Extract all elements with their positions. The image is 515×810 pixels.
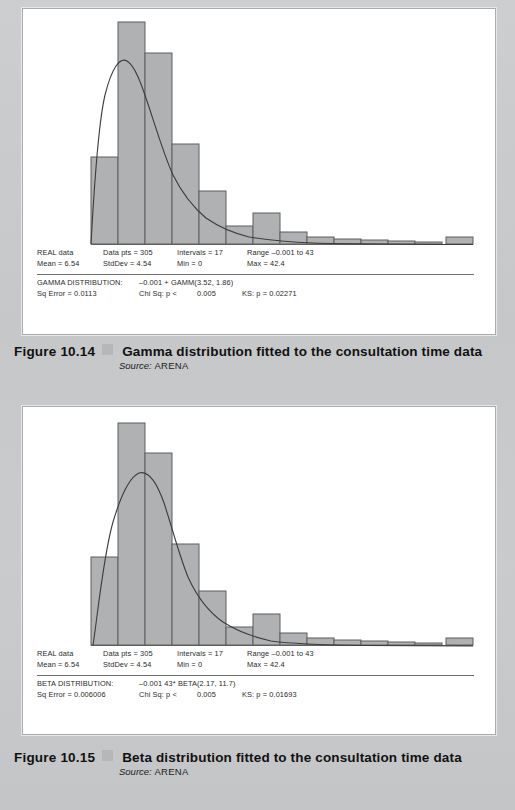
stat-mean: Mean = 6.54 (37, 259, 79, 268)
bar (361, 641, 388, 645)
stat-chi-sq: Chi Sq: p < (139, 289, 177, 298)
caption-source: Source: ARENA (119, 360, 505, 371)
bar (334, 640, 361, 645)
stat-intervals: Intervals = 17 (177, 649, 223, 658)
stat-data-pts: Data pts = 305 (103, 248, 153, 257)
caption-10-14: Figure 10.14 Gamma distribution fitted t… (14, 344, 505, 371)
bar (199, 191, 226, 244)
distribution-label: GAMMA DISTRIBUTION: (37, 278, 123, 287)
distribution-row-errors: Sq Error = 0.0113 Chi Sq: p < 0.005 KS: … (37, 289, 477, 300)
stats-row-real-data: REAL data Data pts = 305 Intervals = 17 … (37, 248, 477, 259)
bar (172, 544, 199, 645)
stat-ks: KS: p = 0.01693 (242, 690, 297, 699)
caption-title: Gamma distribution fitted to the consult… (122, 344, 482, 359)
bar (226, 226, 253, 244)
stat-chi-sq: Chi Sq: p < (139, 690, 177, 699)
bar (172, 144, 199, 244)
stat-real-data: REAL data (37, 649, 73, 658)
chart-panel-beta: REAL data Data pts = 305 Intervals = 17 … (22, 406, 496, 735)
stat-sq-error: Sq Error = 0.0113 (37, 289, 97, 298)
stat-real-data: REAL data (37, 248, 73, 257)
bar (446, 237, 473, 244)
stat-min: Min = 0 (177, 660, 202, 669)
caption-title: Beta distribution fitted to the consulta… (122, 750, 462, 765)
stats-divider-beta (37, 675, 474, 676)
bar (118, 423, 145, 645)
stat-max: Max = 42.4 (247, 660, 285, 669)
bar (388, 642, 415, 645)
stat-stddev: StdDev = 4.54 (103, 660, 151, 669)
distribution-row-errors: Sq Error = 0.006006 Chi Sq: p < 0.005 KS… (37, 690, 477, 701)
stats-block-gamma: REAL data Data pts = 305 Intervals = 17 … (37, 248, 477, 270)
caption-marker-icon (102, 344, 113, 355)
histogram-bars-gamma (91, 22, 473, 244)
chart-panel-gamma: REAL data Data pts = 305 Intervals = 17 … (22, 8, 496, 335)
caption-source-value: ARENA (154, 766, 188, 777)
bar (118, 22, 145, 244)
distribution-expression: –0.001 + GAMM(3.52, 1.86) (139, 278, 233, 287)
bar (91, 157, 118, 244)
stat-chi-sq-value: 0.005 (197, 289, 216, 298)
bar (446, 638, 473, 645)
caption-source-value: ARENA (154, 360, 188, 371)
caption-source: Source: ARENA (119, 766, 505, 777)
distribution-block-beta: BETA DISTRIBUTION: –0.001 43* BETA(2.17,… (37, 679, 477, 701)
distribution-block-gamma: GAMMA DISTRIBUTION: –0.001 + GAMM(3.52, … (37, 278, 477, 300)
stat-mean: Mean = 6.54 (37, 660, 79, 669)
stat-ks: KS: p = 0.02271 (242, 289, 297, 298)
caption-10-15: Figure 10.15 Beta distribution fitted to… (14, 750, 505, 777)
bar (145, 453, 172, 645)
bar (145, 53, 172, 244)
stat-range: Range –0.001 to 43 (247, 248, 314, 257)
bar (415, 643, 442, 645)
bar (415, 242, 442, 244)
histogram-bars-beta (91, 423, 473, 645)
stat-max: Max = 42.4 (247, 259, 285, 268)
caption-source-label: Source: (119, 360, 152, 371)
stats-divider-gamma (37, 274, 474, 275)
stats-row-summary: Mean = 6.54 StdDev = 4.54 Min = 0 Max = … (37, 660, 477, 671)
caption-figure-number: Figure 10.15 (14, 750, 95, 765)
stat-chi-sq-value: 0.005 (197, 690, 216, 699)
stat-range: Range –0.001 to 43 (247, 649, 314, 658)
caption-source-label: Source: (119, 766, 152, 777)
stat-min: Min = 0 (177, 259, 202, 268)
caption-figure-number: Figure 10.14 (14, 344, 95, 359)
caption-marker-icon (102, 750, 113, 761)
bar (226, 627, 253, 645)
stat-intervals: Intervals = 17 (177, 248, 223, 257)
distribution-expression: –0.001 43* BETA(2.17, 11.7) (139, 679, 236, 688)
stats-block-beta: REAL data Data pts = 305 Intervals = 17 … (37, 649, 477, 671)
bar (199, 591, 226, 645)
stats-row-summary: Mean = 6.54 StdDev = 4.54 Min = 0 Max = … (37, 259, 477, 270)
stat-data-pts: Data pts = 305 (103, 649, 153, 658)
distribution-label: BETA DISTRIBUTION: (37, 679, 113, 688)
stat-sq-error: Sq Error = 0.006006 (37, 690, 106, 699)
stat-stddev: StdDev = 4.54 (103, 259, 151, 268)
distribution-row-expression: GAMMA DISTRIBUTION: –0.001 + GAMM(3.52, … (37, 278, 477, 289)
stats-row-real-data: REAL data Data pts = 305 Intervals = 17 … (37, 649, 477, 660)
distribution-row-expression: BETA DISTRIBUTION: –0.001 43* BETA(2.17,… (37, 679, 477, 690)
